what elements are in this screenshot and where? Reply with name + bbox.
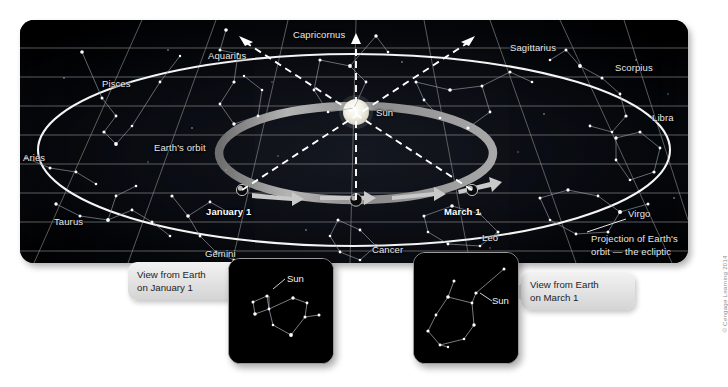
callout-view-from-earth-march: View from Earth on March 1 (521, 272, 635, 310)
inset-march-sun-label: Sun (492, 295, 509, 306)
copyright-credit: © Cengage Learning 2014 (721, 255, 728, 332)
inset-panel-january: Sun (228, 258, 334, 364)
sun-label: Sun (376, 107, 393, 119)
constellation-label-virgo: Virgo (628, 208, 651, 220)
callout-march-line1: View from Earth (530, 278, 626, 291)
constellation-label-leo: Leo (482, 232, 498, 244)
inset-panel-march: Sun (413, 252, 519, 364)
earth-position-label-january: January 1 (206, 206, 251, 218)
earths-orbit-label: Earth's orbit (154, 142, 206, 154)
ecliptic-caption-line1: Projection of Earth's (591, 233, 678, 245)
callout-january-line1: View from Earth (137, 268, 233, 281)
sky-diagram-panel: Pisces Aquarius Capricornus Sagittarius … (20, 20, 688, 263)
constellation-label-taurus: Taurus (54, 216, 83, 228)
inset-march-graphics (414, 253, 518, 363)
constellation-label-cancer: Cancer (372, 244, 403, 256)
constellation-label-libra: Libra (652, 112, 674, 124)
callout-view-from-earth-january: View from Earth on January 1 (128, 262, 242, 300)
inset-january-graphics (229, 259, 333, 363)
constellation-label-aquarius: Aquarius (208, 50, 246, 62)
ecliptic-caption-line2: orbit — the ecliptic (591, 246, 671, 258)
inset-january-sun-label: Sun (287, 273, 304, 284)
callout-january-line2: on January 1 (137, 281, 233, 294)
earth-position-label-march: March 1 (444, 206, 481, 218)
constellation-label-aries: Aries (23, 152, 45, 164)
constellation-label-sagittarius: Sagittarius (510, 42, 556, 54)
sky-background (20, 20, 688, 263)
constellation-label-scorpius: Scorpius (615, 62, 653, 74)
constellation-label-capricornus: Capricornus (293, 29, 345, 41)
constellation-label-pisces: Pisces (102, 78, 131, 90)
sky-diagram-graphics (20, 20, 688, 263)
callout-march-line2: on March 1 (530, 291, 626, 304)
